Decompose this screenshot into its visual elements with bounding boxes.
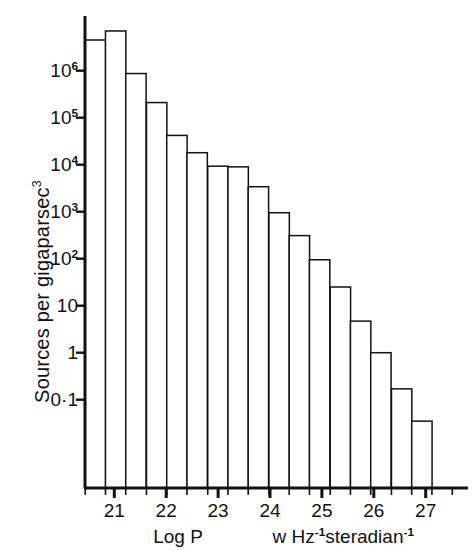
histogram-plot	[0, 0, 474, 550]
histogram-bar	[309, 260, 329, 488]
histogram-bar	[289, 236, 309, 488]
histogram-bar	[371, 353, 391, 488]
histogram-bar	[146, 103, 166, 488]
bar-group	[85, 31, 432, 488]
histogram-bar	[167, 135, 187, 488]
histogram-bar	[187, 153, 207, 488]
histogram-bar	[85, 40, 105, 488]
histogram-bar	[208, 166, 228, 488]
histogram-bar	[126, 74, 146, 488]
histogram-bar	[391, 389, 411, 488]
histogram-bar	[228, 167, 248, 488]
histogram-bar	[412, 421, 432, 488]
figure-container: Sources per gigaparsec3 1061051041031021…	[0, 0, 474, 550]
histogram-bar	[330, 287, 350, 488]
histogram-bar	[105, 31, 125, 488]
histogram-bar	[248, 187, 268, 488]
histogram-bar	[350, 321, 370, 488]
histogram-bar	[269, 213, 289, 488]
